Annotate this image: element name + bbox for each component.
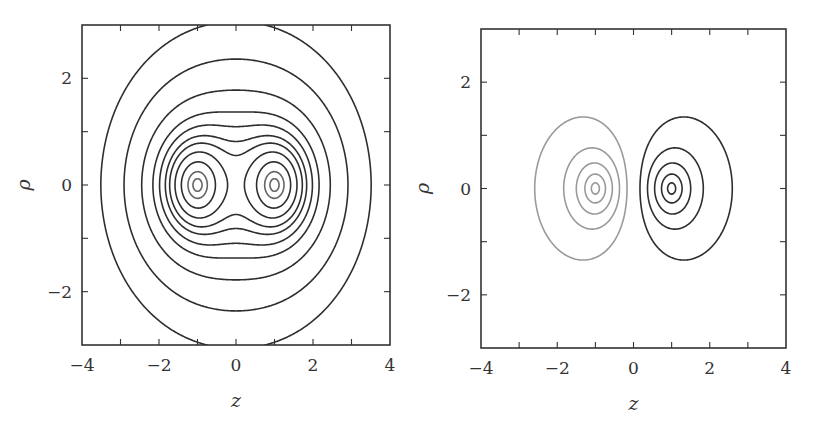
y-tick-label: −2 xyxy=(47,282,72,302)
contour-lines xyxy=(101,25,371,345)
y-tick-label: 2 xyxy=(460,72,471,92)
x-tick-label: 2 xyxy=(308,355,319,375)
y-tick-label: −2 xyxy=(446,285,471,305)
contour-line xyxy=(153,112,319,258)
contour-line xyxy=(124,59,348,311)
contour-line xyxy=(591,183,599,194)
plot-frame xyxy=(82,25,390,345)
contour-line xyxy=(668,183,676,194)
y-tick-label: 2 xyxy=(61,68,72,88)
y-tick-label: 0 xyxy=(61,175,72,195)
tick-marks xyxy=(82,25,390,345)
x-tick-label: 4 xyxy=(781,358,792,378)
contour-line xyxy=(585,174,606,203)
plot-canvas-left: −4−2024−202zρ xyxy=(0,0,407,430)
x-tick-label: −2 xyxy=(146,355,171,375)
contour-line xyxy=(535,117,627,260)
tick-marks xyxy=(481,29,786,348)
contour-line xyxy=(662,174,683,203)
plot-frame xyxy=(481,29,786,348)
x-tick-label: 4 xyxy=(385,355,396,375)
contour-line xyxy=(165,136,306,235)
contour-line xyxy=(576,163,612,214)
contour-lines xyxy=(535,117,733,260)
contour-line xyxy=(181,162,290,208)
contour-plot-left: −4−2024−202zρ xyxy=(0,0,407,430)
plot-canvas-right: −4−2024−202zρ xyxy=(400,0,814,430)
y-tick-label: 0 xyxy=(460,179,471,199)
y-axis-label: ρ xyxy=(411,182,433,195)
x-tick-label: 0 xyxy=(628,358,639,378)
x-axis-label: z xyxy=(627,392,639,414)
x-tick-label: −4 xyxy=(468,358,493,378)
contour-line xyxy=(655,163,691,214)
contour-line xyxy=(193,179,279,192)
x-tick-label: 2 xyxy=(704,358,715,378)
contour-line xyxy=(640,117,732,260)
x-axis-label: z xyxy=(230,389,242,411)
x-tick-label: 0 xyxy=(231,355,242,375)
x-tick-label: −4 xyxy=(69,355,94,375)
x-tick-label: −2 xyxy=(545,358,570,378)
contour-plot-right: −4−2024−202zρ xyxy=(400,0,807,430)
y-axis-label: ρ xyxy=(12,179,34,192)
